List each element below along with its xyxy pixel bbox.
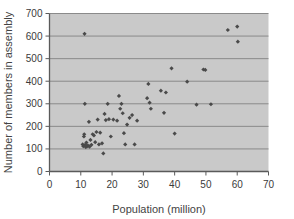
y-axis-ticks: 0100200300400500600700 [26,8,50,177]
y-tick-label-500: 500 [26,53,43,64]
y-tick-label-600: 600 [26,31,43,42]
x-tick-label-70: 70 [263,179,275,190]
x-tick-label-30: 30 [138,179,150,190]
x-tick-label-60: 60 [232,179,244,190]
y-tick-label-0: 0 [37,166,43,177]
x-tick-label-40: 40 [169,179,181,190]
y-tick-label-700: 700 [26,8,43,19]
x-tick-label-20: 20 [107,179,119,190]
x-tick-label-10: 10 [75,179,87,190]
plot-area-background [50,14,269,172]
scatter-chart: 0100200300400500600700 010203040506070 P… [0,0,294,219]
chart-canvas: 0100200300400500600700 010203040506070 P… [0,0,294,219]
x-axis-label: Population (million) [112,203,206,215]
y-tick-label-400: 400 [26,76,43,87]
x-axis-ticks: 010203040506070 [47,172,275,190]
y-axis-label: Number of members in assembly [2,11,14,173]
x-tick-label-0: 0 [47,179,53,190]
y-tick-label-100: 100 [26,143,43,154]
y-tick-label-200: 200 [26,121,43,132]
y-tick-label-300: 300 [26,98,43,109]
plot-background-group [50,14,269,172]
x-tick-label-50: 50 [200,179,212,190]
